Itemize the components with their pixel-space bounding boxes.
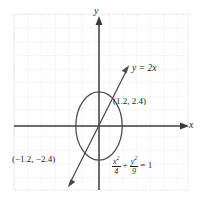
- fraction-denominator: 4: [113, 167, 119, 176]
- fraction-denominator: 9: [131, 167, 137, 176]
- exponent-2: 2: [117, 155, 120, 161]
- math-figure: y x y = 2x (1.2, 2.4) (−1.2, −2.4) x2 4 …: [0, 0, 203, 205]
- fraction-x-squared-over-4: x2 4: [112, 155, 121, 176]
- operator-equals: =: [140, 161, 146, 170]
- fraction-numerator: x2: [112, 155, 121, 166]
- point-label-negative: (−1.2, −2.4): [12, 155, 55, 164]
- right-hand-side: 1: [147, 161, 153, 170]
- operator-plus: +: [122, 161, 128, 170]
- fraction-numerator: y2: [130, 155, 139, 166]
- point-label-positive: (1.2, 2.4): [113, 97, 146, 106]
- plot-canvas: [0, 0, 203, 205]
- axis-label-x: x: [189, 120, 193, 130]
- fraction-y-squared-over-9: y2 9: [130, 155, 139, 176]
- exponent-2: 2: [134, 155, 137, 161]
- axis-label-y: y: [94, 6, 98, 16]
- line-equation-label: y = 2x: [132, 64, 156, 74]
- ellipse-equation-label: x2 4 + y2 9 = 1: [112, 155, 153, 176]
